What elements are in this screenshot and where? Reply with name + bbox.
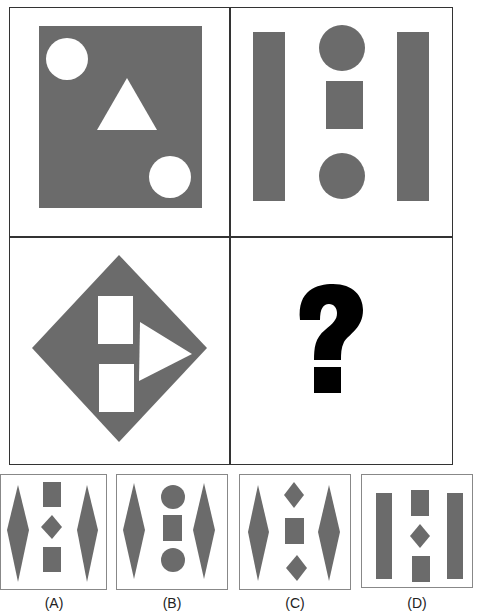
diamond-with-holes-figure (10, 238, 229, 464)
option-c[interactable] (239, 474, 351, 590)
matrix-cell-bottom-right (231, 238, 452, 464)
option-c-label[interactable]: (C) (265, 595, 325, 611)
option-a[interactable] (0, 474, 107, 590)
option-a-label[interactable]: (A) (24, 595, 84, 611)
option-d-figure (362, 475, 474, 589)
bars-circles-figure (231, 8, 452, 236)
option-c-figure (240, 475, 352, 591)
option-d[interactable] (361, 474, 473, 588)
matrix-cell-top-left (10, 8, 229, 236)
matrix-cell-top-right (231, 8, 452, 236)
question-mark-icon (231, 238, 452, 464)
option-b-figure (117, 475, 229, 591)
matrix-cell-bottom-left (10, 238, 229, 464)
option-d-label[interactable]: (D) (387, 595, 447, 611)
square-with-holes-figure (10, 8, 229, 236)
option-a-figure (1, 475, 108, 591)
option-b[interactable] (116, 474, 228, 590)
option-b-label[interactable]: (B) (142, 595, 202, 611)
